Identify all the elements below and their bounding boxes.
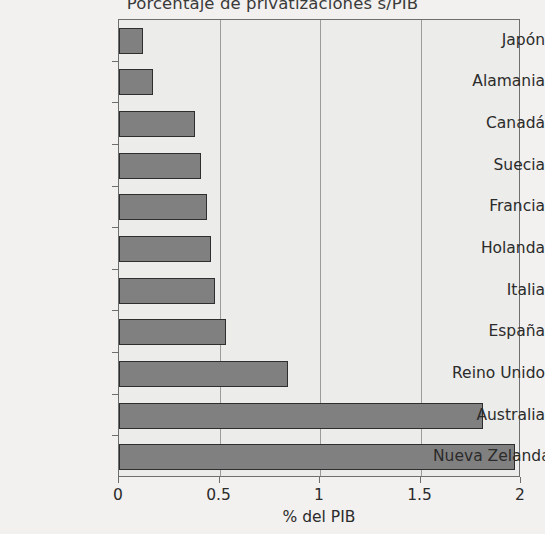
y-axis-tick-label: Francia <box>433 197 545 215</box>
y-axis-tick-label: Nueva Zelanda <box>433 447 545 465</box>
y-axis-tick-label: Holanda <box>433 239 545 257</box>
y-axis-tick-label: Reino Unido <box>433 364 545 382</box>
x-axis-tick-mark <box>520 477 521 483</box>
x-axis-tick-label: 2 <box>515 486 525 504</box>
y-axis-tick-mark <box>112 227 118 228</box>
bar <box>119 403 483 429</box>
y-axis-tick-mark <box>112 352 118 353</box>
y-axis-tick-mark <box>112 269 118 270</box>
bar <box>119 111 195 137</box>
bar <box>119 278 215 304</box>
y-axis-tick-label: Suecia <box>433 156 545 174</box>
bar <box>119 153 201 179</box>
y-axis-tick-mark <box>112 186 118 187</box>
x-axis-tick-label: 0.5 <box>206 486 231 504</box>
x-axis-tick-mark <box>319 477 320 483</box>
bar <box>119 194 207 220</box>
y-axis-tick-label: Alamania <box>433 72 545 90</box>
x-axis-tick-mark <box>420 477 421 483</box>
y-axis-tick-label: Australia <box>433 406 545 424</box>
x-axis-tick-label: 1.5 <box>407 486 432 504</box>
bar <box>119 69 153 95</box>
x-axis-tick-label: 0 <box>113 486 123 504</box>
bar <box>119 319 226 345</box>
y-axis-tick-mark <box>112 435 118 436</box>
bar <box>119 236 211 262</box>
y-axis-tick-label: Japón <box>433 31 545 49</box>
bar <box>119 361 288 387</box>
y-axis-tick-mark <box>112 394 118 395</box>
y-axis-tick-mark <box>112 144 118 145</box>
x-axis-tick-mark <box>118 477 119 483</box>
chart-figure: Porcentaje de privatizaciones s/PIB Japó… <box>0 0 545 534</box>
bar <box>119 28 143 54</box>
y-axis-tick-mark <box>112 102 118 103</box>
y-axis-tick-label: Canadá <box>433 114 545 132</box>
y-axis-tick-label: España <box>433 322 545 340</box>
x-axis-tick-mark <box>219 477 220 483</box>
x-axis-tick-label: 1 <box>314 486 324 504</box>
chart-title: Porcentaje de privatizaciones s/PIB <box>0 0 545 13</box>
x-axis-title: % del PIB <box>118 508 520 526</box>
y-axis-tick-mark <box>112 310 118 311</box>
y-axis-tick-label: Italia <box>433 281 545 299</box>
y-axis-tick-mark <box>112 61 118 62</box>
